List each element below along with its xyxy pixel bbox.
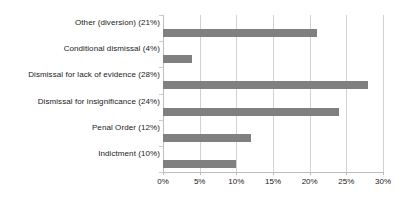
category-tick-mark	[159, 67, 163, 68]
category-label: Indictment (10%)	[0, 149, 160, 159]
x-tick-mark	[163, 172, 164, 175]
bar-row	[163, 94, 383, 120]
x-tick-mark	[273, 172, 274, 175]
category-label: Other (diversion) (21%)	[0, 18, 160, 28]
x-axis-tick-labels: 0%5%10%15%20%25%30%	[0, 176, 412, 190]
x-tick-label: 5%	[180, 176, 220, 187]
x-tick-label: 10%	[216, 176, 256, 187]
bar-row	[163, 120, 383, 146]
bar-row	[163, 15, 383, 41]
x-tick-label: 30%	[363, 176, 403, 187]
bar	[163, 108, 339, 116]
category-tick-mark	[159, 172, 163, 173]
category-label: Dismissal for lack of evidence (28%)	[0, 70, 160, 80]
category-tick-mark	[159, 94, 163, 95]
category-label: Dismissal for insignificance (24%)	[0, 97, 160, 107]
x-tick-label: 20%	[290, 176, 330, 187]
x-tick-mark	[383, 172, 384, 175]
plot-area	[163, 15, 383, 172]
category-tick-mark	[159, 41, 163, 42]
category-tick-mark	[159, 146, 163, 147]
x-tick-mark	[310, 172, 311, 175]
x-tick-mark	[200, 172, 201, 175]
category-label: Penal Order (12%)	[0, 123, 160, 133]
x-tick-mark	[346, 172, 347, 175]
bar	[163, 55, 192, 63]
x-tick-label: 0%	[143, 176, 183, 187]
gridline-30pct	[383, 15, 384, 172]
x-tick-label: 15%	[253, 176, 293, 187]
bar-row	[163, 67, 383, 93]
x-tick-label: 25%	[326, 176, 366, 187]
bar-chart: Other (diversion) (21%)Conditional dismi…	[0, 0, 412, 204]
bar	[163, 29, 317, 37]
category-tick-mark	[159, 120, 163, 121]
bar	[163, 81, 368, 89]
bar-row	[163, 146, 383, 172]
category-tick-mark	[159, 15, 163, 16]
bar-row	[163, 41, 383, 67]
category-label: Conditional dismissal (4%)	[0, 44, 160, 54]
bar	[163, 160, 236, 168]
category-axis-labels: Other (diversion) (21%)Conditional dismi…	[0, 15, 160, 172]
x-tick-mark	[236, 172, 237, 175]
bar	[163, 134, 251, 142]
